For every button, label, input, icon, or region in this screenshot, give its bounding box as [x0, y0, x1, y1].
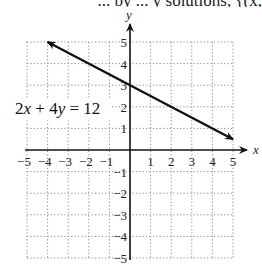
x-tick-label: 3 — [189, 154, 196, 169]
y-tick-label: 2 — [121, 100, 128, 115]
x-tick-label: −1 — [99, 154, 113, 169]
y-tick-label: −1 — [113, 165, 127, 180]
y-tick-label: −2 — [113, 186, 127, 201]
y-tick-label: −3 — [113, 208, 127, 223]
line-2x-plus-4y-equals-12 — [48, 42, 233, 139]
y-tick-label: 5 — [121, 35, 128, 50]
x-tick-label: −2 — [79, 154, 93, 169]
y-tick-label: 1 — [121, 121, 128, 136]
x-tick-label: 2 — [168, 154, 175, 169]
line-start-arrowhead — [48, 42, 54, 45]
annotations: 2x + 4y = 12 — [12, 98, 112, 120]
x-tick-label: −3 — [58, 154, 72, 169]
x-tick-label: 4 — [209, 154, 216, 169]
x-tick-label: −4 — [38, 154, 52, 169]
x-tick-label: −5 — [17, 154, 31, 169]
series — [48, 42, 233, 139]
equation-label: 2x + 4y = 12 — [15, 99, 100, 118]
x-axis-label: x — [252, 142, 259, 157]
y-tick-label: −4 — [113, 229, 127, 244]
y-axis-label: y — [124, 7, 132, 22]
y-tick-label: 4 — [121, 57, 128, 72]
x-tick-label: 1 — [147, 154, 154, 169]
x-tick-label: 5 — [230, 154, 237, 169]
coordinate-plane: xy −5−4−3−2−112345−5−4−3−2−112345 2x + 4… — [0, 0, 262, 268]
y-tick-label: −5 — [113, 251, 127, 266]
